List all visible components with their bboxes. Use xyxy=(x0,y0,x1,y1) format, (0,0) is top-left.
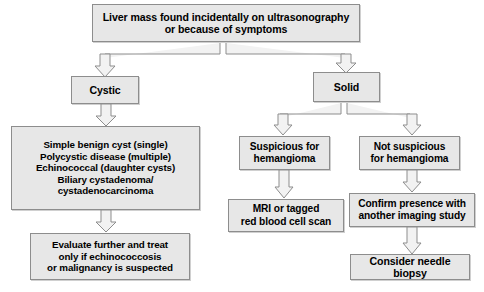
node-root-line1: Liver mass found incidentally on ultraso… xyxy=(90,11,362,24)
node-cyst-types-line2: Polycystic disease (multiple) xyxy=(9,151,202,163)
node-cystic-label: Cystic xyxy=(72,84,138,97)
node-cyst-types-line5: cystadenocarcinoma xyxy=(9,185,202,197)
arrow-confirm-to-biopsy xyxy=(403,227,421,255)
node-cyst-types-line3: Echinococcal (daughter cysts) xyxy=(9,162,202,174)
node-biopsy: Consider needle biopsy xyxy=(350,254,470,280)
node-solid-label: Solid xyxy=(314,81,379,94)
node-not-suspicious: Not suspicious for hemangioma xyxy=(359,136,460,170)
node-confirm: Confirm presence with another imaging st… xyxy=(349,193,475,227)
node-evaluate-line1: Evaluate further and treat xyxy=(28,239,192,251)
node-biopsy-label: Consider needle biopsy xyxy=(351,255,469,280)
node-cyst-types-line1: Simple benign cyst (single) xyxy=(9,139,202,151)
node-suspicious-line1: Suspicious for xyxy=(237,141,332,153)
node-mri: MRI or tagged red blood cell scan xyxy=(228,199,344,232)
node-confirm-line2: another imaging study xyxy=(347,210,477,222)
arrow-cystic-to-cyst-types xyxy=(96,104,116,127)
arrow-suspicious-to-mri xyxy=(275,170,293,199)
arrow-cyst-types-to-evaluate xyxy=(96,210,116,233)
node-suspicious: Suspicious for hemangioma xyxy=(239,136,330,170)
node-not-suspicious-line2: for hemangioma xyxy=(357,153,462,165)
flowchart-canvas: Liver mass found incidentally on ultraso… xyxy=(0,0,484,292)
arrow-root-to-solid xyxy=(336,54,356,74)
node-root-line2: or because of symptoms xyxy=(90,23,362,36)
arrow-not-suspicious-to-confirm xyxy=(403,170,421,193)
node-evaluate-line2: only if echinococcosis xyxy=(28,251,192,263)
node-cyst-types: Simple benign cyst (single) Polycystic d… xyxy=(11,126,200,210)
arrow-solid-to-suspicious xyxy=(274,114,292,136)
node-root: Liver mass found incidentally on ultraso… xyxy=(92,4,360,42)
node-cyst-types-line4: Biliary cystadenoma/ xyxy=(9,174,202,186)
node-evaluate-line3: or malignancy is suspected xyxy=(28,262,192,274)
arrow-root-to-cystic xyxy=(95,54,115,78)
node-confirm-line1: Confirm presence with xyxy=(347,198,477,210)
node-evaluate: Evaluate further and treat only if echin… xyxy=(30,233,190,280)
node-suspicious-line2: hemangioma xyxy=(237,153,332,165)
node-cystic: Cystic xyxy=(71,76,139,104)
node-solid: Solid xyxy=(313,72,380,102)
node-not-suspicious-line1: Not suspicious xyxy=(357,141,462,153)
node-mri-line2: red blood cell scan xyxy=(226,216,346,228)
arrow-solid-to-not-suspicious xyxy=(403,114,421,136)
node-mri-line1: MRI or tagged xyxy=(226,203,346,215)
